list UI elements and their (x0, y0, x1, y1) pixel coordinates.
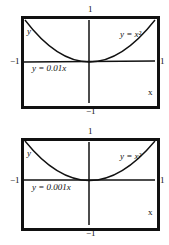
x-tick-right: 1 (160, 57, 165, 66)
line-label: y = 0.01x (32, 64, 66, 73)
chart-panel-bottom: 1 −1 −1 1 y x y = x² y = 0.001x (0, 122, 169, 244)
plot-area (0, 122, 169, 244)
y-axis-label: y (27, 149, 31, 158)
y-tick-top: 1 (88, 127, 93, 136)
y-axis-label: y (27, 27, 31, 36)
y-tick-bottom: −1 (86, 229, 96, 238)
plot-area (0, 0, 169, 122)
curve-label: y = x² (120, 152, 141, 161)
chart-panel-top: 1 −1 −1 1 y x y = x² y = 0.01x (0, 0, 169, 122)
x-tick-left: −1 (10, 176, 20, 185)
line-label: y = 0.001x (32, 183, 71, 192)
x-axis-label: x (148, 88, 153, 97)
x-tick-right: 1 (160, 176, 165, 185)
curve-label: y = x² (120, 30, 141, 39)
y-tick-top: 1 (88, 5, 93, 14)
y-tick-bottom: −1 (86, 107, 96, 116)
x-tick-left: −1 (10, 57, 20, 66)
x-axis-label: x (148, 208, 153, 217)
